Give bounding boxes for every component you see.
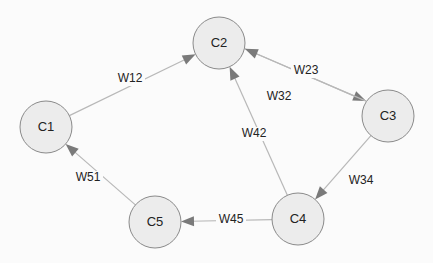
arrowhead-icon: [181, 216, 194, 226]
arrowhead-icon: [182, 54, 196, 64]
arrowhead-icon: [245, 49, 259, 59]
edge-label: W45: [219, 212, 244, 226]
node-c4[interactable]: C4: [272, 193, 324, 245]
arrowhead-icon: [230, 67, 240, 81]
node-label: C3: [380, 108, 397, 123]
node-c3[interactable]: C3: [362, 90, 414, 142]
node-c2[interactable]: C2: [193, 17, 245, 69]
edge-label: W51: [76, 170, 101, 184]
edge-c3-c4: [315, 136, 371, 200]
edge-label: W42: [242, 126, 267, 140]
graph-canvas: C1C2C3C4C5 W12W23W32W42W34W45W51: [0, 0, 433, 263]
edge-label: W23: [294, 63, 319, 77]
node-label: C2: [211, 35, 228, 50]
edges-layer: [66, 49, 371, 226]
edge-label: W32: [267, 89, 292, 103]
node-label: C1: [38, 119, 55, 134]
edge-label: W34: [349, 173, 374, 187]
edge-label: W12: [118, 71, 143, 85]
node-label: C5: [147, 214, 164, 229]
node-c1[interactable]: C1: [20, 101, 72, 153]
edge-labels-layer: W12W23W32W42W34W45W51: [73, 63, 376, 227]
graph-svg: C1C2C3C4C5 W12W23W32W42W34W45W51: [0, 0, 433, 263]
node-c5[interactable]: C5: [129, 196, 181, 248]
node-label: C4: [290, 211, 307, 226]
